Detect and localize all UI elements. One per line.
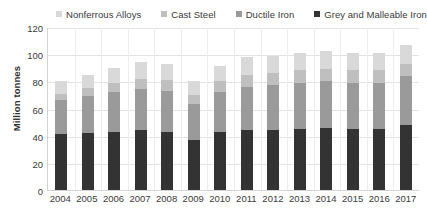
bar-segment[interactable] (135, 130, 147, 190)
bar-segment[interactable] (241, 130, 253, 190)
bar-segment[interactable] (294, 129, 306, 190)
x-axis-tick-label: 2012 (260, 193, 287, 209)
bar-segment[interactable] (135, 79, 147, 90)
bar-stack (400, 45, 412, 190)
bar-group[interactable] (128, 28, 155, 190)
bar-segment[interactable] (400, 45, 412, 64)
bar-segment[interactable] (161, 132, 173, 190)
bar-group[interactable] (287, 28, 314, 190)
bar-stack (55, 81, 67, 190)
bar-segment[interactable] (320, 51, 332, 69)
bar-segment[interactable] (161, 91, 173, 132)
bar-segment[interactable] (82, 133, 94, 190)
bar-segment[interactable] (214, 92, 226, 131)
x-axis-tick-label: 2005 (74, 193, 101, 209)
bar-group[interactable] (181, 28, 208, 190)
bar-segment[interactable] (347, 83, 359, 129)
bar-stack (214, 66, 226, 190)
legend-swatch-icon (161, 11, 167, 17)
bar-segment[interactable] (267, 130, 279, 190)
bar-segment[interactable] (347, 53, 359, 71)
legend-item[interactable]: Nonferrous Alloys (56, 9, 141, 20)
bar-segment[interactable] (108, 68, 120, 83)
bar-segment[interactable] (320, 128, 332, 190)
legend-swatch-icon (314, 11, 320, 17)
bar-segment[interactable] (214, 81, 226, 92)
bar-segment[interactable] (55, 94, 67, 101)
bar-group[interactable] (207, 28, 234, 190)
bar-segment[interactable] (294, 83, 306, 129)
bar-segment[interactable] (400, 125, 412, 190)
bar-segment[interactable] (55, 81, 67, 93)
bar-group[interactable] (340, 28, 367, 190)
bar-segment[interactable] (55, 134, 67, 190)
bar-segment[interactable] (82, 75, 94, 89)
plot-area: 120100806040200 (47, 28, 419, 191)
bar-group[interactable] (101, 28, 128, 190)
legend-swatch-icon (236, 11, 242, 17)
bar-segment[interactable] (373, 83, 385, 129)
bar-segment[interactable] (161, 64, 173, 80)
x-axis-tick-label: 2013 (286, 193, 313, 209)
bar-segment[interactable] (347, 70, 359, 82)
bar-group[interactable] (234, 28, 261, 190)
bar-group[interactable] (260, 28, 287, 190)
bar-segment[interactable] (108, 83, 120, 93)
legend-item[interactable]: Cast Steel (161, 9, 215, 20)
bar-group[interactable] (393, 28, 420, 190)
legend-item-label: Ductile Iron (246, 9, 295, 20)
bar-segment[interactable] (188, 81, 200, 95)
bar-segment[interactable] (320, 69, 332, 81)
y-axis-tick-label: 120 (3, 23, 43, 34)
bar-segment[interactable] (188, 95, 200, 105)
bar-segment[interactable] (82, 96, 94, 133)
bar-segment[interactable] (373, 70, 385, 82)
bar-segment[interactable] (108, 92, 120, 131)
bar-segment[interactable] (55, 100, 67, 134)
bar-segment[interactable] (135, 89, 147, 130)
legend-item-label: Nonferrous Alloys (66, 9, 141, 20)
bar-segment[interactable] (267, 85, 279, 130)
legend-item[interactable]: Ductile Iron (236, 9, 295, 20)
bar-segment[interactable] (373, 53, 385, 71)
x-axis-tick-label: 2014 (313, 193, 340, 209)
bar-segment[interactable] (108, 132, 120, 190)
bar-segment[interactable] (294, 70, 306, 82)
bar-segment[interactable] (347, 129, 359, 190)
bar-segment[interactable] (320, 81, 332, 127)
bar-segment[interactable] (294, 53, 306, 71)
y-axis-tick-label: 100 (3, 50, 43, 61)
bar-segment[interactable] (188, 140, 200, 190)
bar-segment[interactable] (188, 104, 200, 139)
bar-segment[interactable] (400, 64, 412, 76)
legend-item[interactable]: Grey and Malleable Iron (314, 9, 427, 20)
legend-swatch-icon (56, 11, 62, 17)
bar-group[interactable] (48, 28, 75, 190)
x-axis-tick-label: 2016 (366, 193, 393, 209)
bar-segment[interactable] (373, 129, 385, 190)
bar-segment[interactable] (161, 80, 173, 91)
bar-segment[interactable] (267, 73, 279, 85)
bar-group[interactable] (75, 28, 102, 190)
y-axis-tick-label: 40 (3, 131, 43, 142)
bar-group[interactable] (313, 28, 340, 190)
y-axis-title: Million tonnes (11, 59, 22, 139)
bar-stack (267, 56, 279, 190)
bar-segment[interactable] (400, 76, 412, 125)
bar-segment[interactable] (135, 62, 147, 78)
bar-segment[interactable] (241, 87, 253, 130)
bar-group[interactable] (366, 28, 393, 190)
bar-stack (82, 75, 94, 190)
bar-segment[interactable] (241, 57, 253, 75)
bar-series-container (48, 28, 419, 190)
bar-segment[interactable] (241, 75, 253, 87)
bar-segment[interactable] (214, 132, 226, 190)
bar-segment[interactable] (82, 88, 94, 96)
bar-segment[interactable] (267, 56, 279, 74)
bar-group[interactable] (154, 28, 181, 190)
bar-stack (188, 81, 200, 190)
x-axis-tick-label: 2011 (233, 193, 260, 209)
bar-stack (294, 53, 306, 190)
bar-segment[interactable] (214, 66, 226, 81)
x-axis-tick-labels: 2004200520062007200820092010201120122013… (47, 193, 419, 209)
